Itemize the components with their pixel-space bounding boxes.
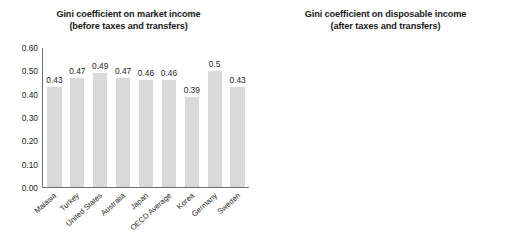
bar-item[interactable]: 0.46 [157, 48, 180, 187]
bar[interactable] [70, 78, 84, 187]
bar-value-label: 0.39 [184, 85, 200, 95]
bar[interactable] [208, 71, 222, 187]
bar[interactable] [162, 80, 176, 187]
bar-value-label: 0.47 [115, 66, 131, 76]
y-tick-label: 0.30 [22, 113, 38, 123]
bar-value-label: 0.46 [138, 68, 154, 78]
bar-item[interactable]: 0.46 [135, 48, 158, 187]
chart-panel-disposable-income: Gini coefficient on disposable income (a… [257, 0, 514, 246]
x-tick-cell: Malasia [43, 188, 66, 246]
x-tick-cell: Germany [203, 188, 226, 246]
x-tick-cell: Sweden [226, 188, 249, 246]
bar[interactable] [93, 73, 107, 187]
bar-value-label: 0.5 [209, 59, 221, 69]
y-tick-label: 0.20 [22, 136, 38, 146]
y-tick-label: 0.50 [22, 66, 38, 76]
x-tick-cell: Korea [180, 188, 203, 246]
bar-value-label: 0.43 [229, 75, 245, 85]
chart-title-right: Gini coefficient on disposable income (a… [257, 9, 514, 32]
bar-value-label: 0.46 [161, 68, 177, 78]
y-tick-label: 0.10 [22, 160, 38, 170]
bar[interactable] [139, 80, 153, 187]
bar-item[interactable]: 0.47 [66, 48, 89, 187]
bar-group-left: 0.430.470.490.470.460.460.390.50.43 [43, 48, 249, 187]
y-tick-label: 0.00 [22, 183, 38, 193]
plot-area-left: 0.000.100.200.300.400.500.60 0.430.470.4… [42, 48, 249, 188]
chart-page: Gini coefficient on market income (befor… [0, 0, 514, 246]
chart-panel-market-income: Gini coefficient on market income (befor… [0, 0, 257, 246]
bar-value-label: 0.43 [46, 75, 62, 85]
x-tick-cell: OECD Average [157, 188, 180, 246]
bar-value-label: 0.49 [92, 61, 108, 71]
bar-item[interactable]: 0.43 [43, 48, 66, 187]
y-tick-label: 0.40 [22, 90, 38, 100]
bar[interactable] [47, 87, 61, 187]
x-tick-cell: United States [89, 188, 112, 246]
bar-value-label: 0.47 [69, 66, 85, 76]
y-tick-label: 0.60 [22, 43, 38, 53]
bar-item[interactable]: 0.49 [89, 48, 112, 187]
bar-item[interactable]: 0.43 [226, 48, 249, 187]
x-tick-cell: Australia [112, 188, 135, 246]
chart-title-right-line2: (after taxes and transfers) [257, 21, 514, 33]
chart-title-left-line1: Gini coefficient on market income [0, 9, 257, 21]
x-tick-group-left: MalasiaTurkeyUnited StatesAustraliaJapan… [43, 188, 249, 246]
chart-title-right-line1: Gini coefficient on disposable income [257, 9, 514, 21]
chart-title-left: Gini coefficient on market income (befor… [0, 9, 257, 32]
chart-title-left-line2: (before taxes and transfers) [0, 21, 257, 33]
